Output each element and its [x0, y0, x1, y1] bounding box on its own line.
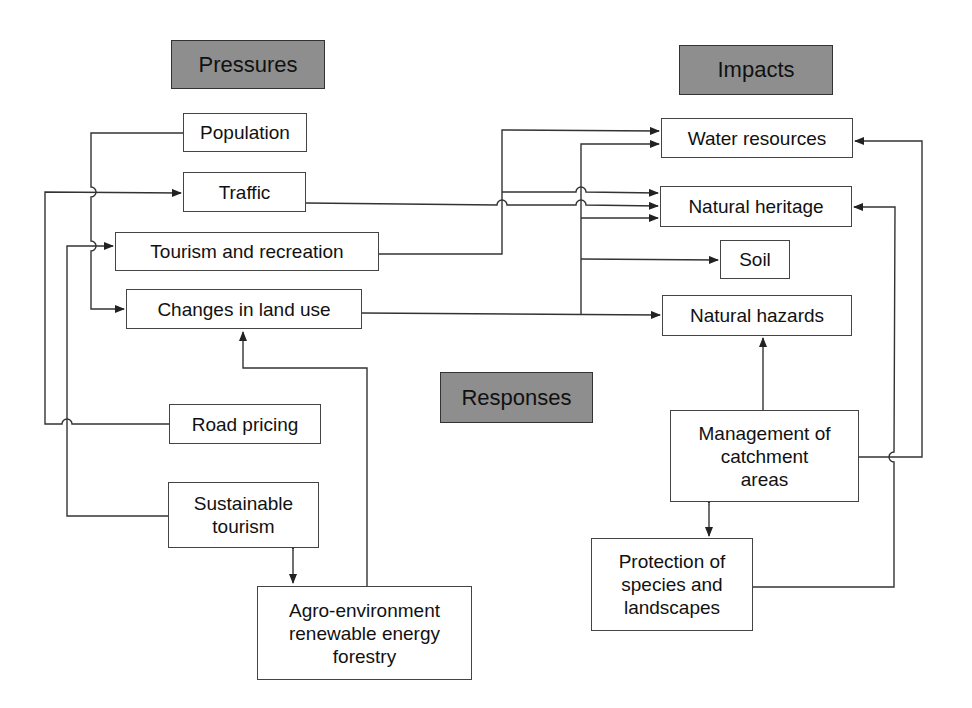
node-agro-environment: Agro-environment renewable energy forest… [257, 586, 472, 680]
impacts-header: Impacts [679, 45, 833, 95]
node-traffic: Traffic [183, 172, 306, 212]
responses-header: Responses [440, 372, 593, 423]
node-sustainable-tourism: Sustainable tourism [168, 482, 319, 548]
node-species-protection: Protection of species and landscapes [591, 538, 753, 631]
pressures-header: Pressures [171, 40, 325, 89]
node-natural-hazards: Natural hazards [662, 295, 852, 336]
node-tourism-recreation: Tourism and recreation [115, 232, 379, 271]
connector-lines [0, 0, 972, 708]
node-natural-heritage: Natural heritage [660, 186, 852, 227]
node-soil: Soil [720, 240, 790, 279]
node-road-pricing: Road pricing [169, 404, 321, 444]
node-catchment-management: Management of catchment areas [670, 410, 859, 502]
node-water-resources: Water resources [661, 118, 853, 158]
node-changes-land-use: Changes in land use [126, 289, 362, 329]
node-population: Population [183, 113, 307, 152]
